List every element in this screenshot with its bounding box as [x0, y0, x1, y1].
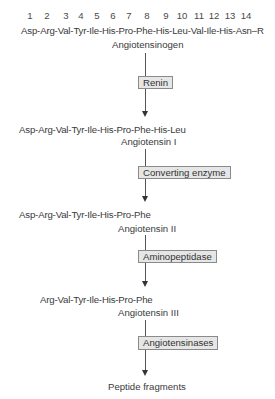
arrow-down-icon — [142, 370, 148, 376]
residue-number: 14 — [241, 10, 252, 21]
angiotensinogen-sequence: Asp-Arg-Val-Tyr-Ile-His-Pro-Phe-His-Leu-… — [21, 25, 264, 36]
angiotensin-1-sequence: Asp-Arg-Val-Tyr-Ile-His-Pro-Phe-His-Leu — [19, 124, 186, 135]
enzyme-renin: Renin — [138, 76, 173, 89]
angiotensin-3-sequence: Arg-Val-Tyr-Ile-His-Pro-Phe — [40, 294, 153, 305]
residue-number: 6 — [110, 10, 115, 21]
enzyme-angiotensinases: Angiotensinases — [138, 336, 218, 350]
residue-number: 5 — [94, 10, 99, 21]
residue-number: 12 — [209, 10, 220, 21]
residue-number: 10 — [177, 10, 188, 21]
residue-number: 8 — [144, 10, 149, 21]
angiotensinogen-label: Angiotensinogen — [112, 39, 183, 50]
angiotensin-2-sequence: Asp-Arg-Val-Tyr-Ile-His-Pro-Phe — [19, 209, 151, 220]
enzyme-converting-enzyme: Converting enzyme — [138, 166, 231, 179]
arrow-down-icon — [142, 196, 148, 202]
arrow-down-icon — [142, 111, 148, 117]
residue-number: 4 — [78, 10, 83, 21]
residue-number: 7 — [126, 10, 131, 21]
residue-number: 9 — [163, 10, 168, 21]
residue-number: 11 — [194, 10, 204, 21]
residue-number: 13 — [225, 10, 236, 21]
enzyme-aminopeptidase: Aminopeptidase — [138, 250, 217, 263]
residue-number: 1 — [27, 10, 32, 21]
peptide-fragments-label: Peptide fragments — [108, 381, 186, 392]
angiotensin-2-label: Angiotensin II — [118, 223, 176, 234]
angiotensin-3-label: Angiotensin III — [118, 307, 179, 318]
arrow-down-icon — [142, 281, 148, 287]
residue-number: 3 — [63, 10, 68, 21]
angiotensin-1-label: Angiotensin I — [121, 136, 176, 147]
residue-number: 2 — [44, 10, 49, 21]
